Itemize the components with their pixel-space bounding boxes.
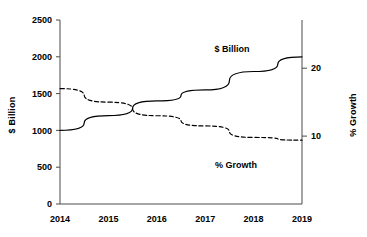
x-axis-tick-label: 2015 [98,214,118,224]
x-axis-tick-label: 2014 [50,214,70,224]
y-axis-right-tick-label: 20 [311,63,321,73]
x-axis-tick-label: 2019 [292,214,312,224]
x-axis-tick-label: 2018 [244,214,264,224]
y-axis-left-tick-label: 1500 [32,89,52,99]
series-line-billion [60,57,302,131]
y-axis-left-tick-label: 2500 [32,15,52,25]
y-axis-left-tick-label: 0 [47,199,52,209]
y-axis-right-tick-label: 10 [311,131,321,141]
line-chart: 0500100015002000250010202014201520162017… [0,0,367,237]
y-axis-left-tick-label: 2000 [32,52,52,62]
series-annotation-billion: $ Billion [214,44,249,54]
x-axis-tick-label: 2016 [147,214,167,224]
x-axis-tick-label: 2017 [195,214,215,224]
y-axis-left-tick-label: 1000 [32,126,52,136]
chart-container: 0500100015002000250010202014201520162017… [0,0,367,237]
y-axis-left-tick-label: 500 [37,162,52,172]
y-axis-right-title: % Growth [348,84,358,146]
series-annotation-growth: % Growth [215,160,257,170]
y-axis-left-title: $ Billion [7,85,17,145]
